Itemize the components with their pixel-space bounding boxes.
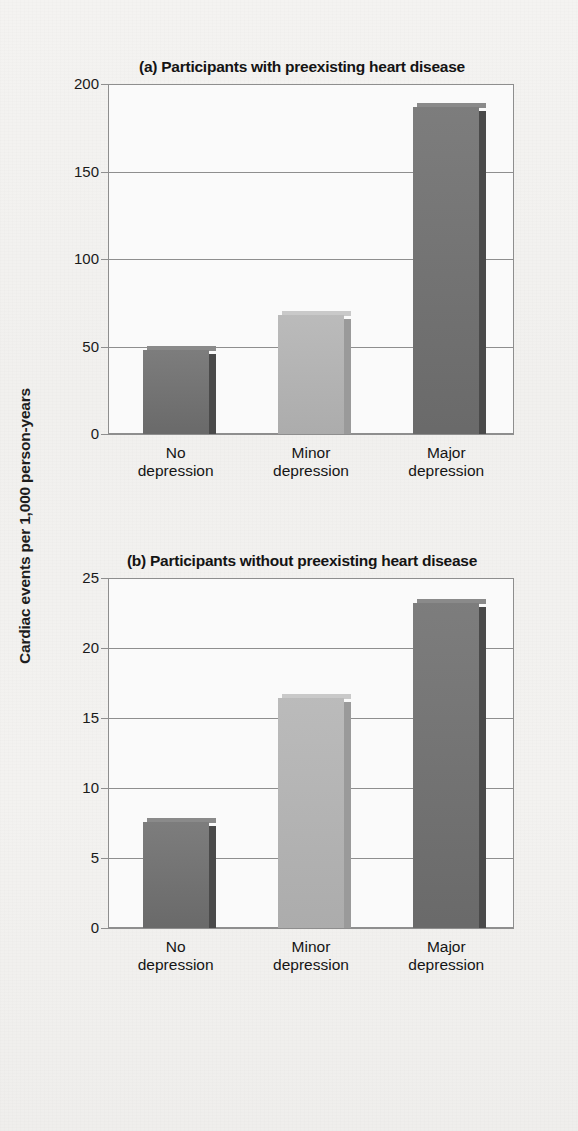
bar-no-depression — [143, 822, 209, 928]
y-tick-mark — [101, 928, 108, 929]
x-label-minor-depression: Minor depression — [243, 434, 378, 481]
bar-side — [344, 319, 351, 434]
y-tick-label: 0 — [91, 425, 99, 442]
x-label-no-depression: No depression — [108, 434, 243, 481]
chart-panel-b: (b) Participants without preexisting hea… — [0, 552, 578, 928]
bar-side — [479, 607, 486, 928]
panel-b-plot-area: 0510152025 No depression Minor depressio… — [108, 578, 514, 928]
y-tick-label: 5 — [91, 849, 99, 866]
x-label-line2: depression — [243, 462, 378, 480]
x-label-line1: No — [108, 938, 243, 956]
y-tick-mark — [101, 648, 108, 649]
panel-b-bars — [108, 578, 514, 928]
y-tick-label: 0 — [91, 919, 99, 936]
y-tick-label: 100 — [74, 250, 99, 267]
y-tick-label: 10 — [82, 779, 99, 796]
panel-a-bars — [108, 84, 514, 434]
x-label-line2: depression — [379, 956, 514, 974]
figure-page: Cardiac events per 1,000 person-years (a… — [0, 0, 578, 1131]
bar-face — [143, 822, 209, 928]
x-label-line1: No — [108, 444, 243, 462]
x-label-major-depression: Major depression — [379, 928, 514, 975]
bar-slot — [379, 578, 514, 928]
bar-major-depression — [413, 107, 479, 434]
x-label-line1: Minor — [243, 444, 378, 462]
bar-side — [479, 111, 486, 434]
panel-a-plot-area: 050100150200 No depression Minor depress… — [108, 84, 514, 434]
x-label-line1: Minor — [243, 938, 378, 956]
y-tick-label: 25 — [82, 569, 99, 586]
y-tick-label: 15 — [82, 709, 99, 726]
y-tick-label: 50 — [82, 338, 99, 355]
panel-a-x-labels: No depression Minor depression Major dep… — [108, 434, 514, 481]
bar-slot — [379, 84, 514, 434]
y-tick-mark — [101, 172, 108, 173]
y-tick-mark — [101, 858, 108, 859]
bar-slot — [243, 578, 378, 928]
y-tick-label: 20 — [82, 639, 99, 656]
y-tick-mark — [101, 718, 108, 719]
x-label-line2: depression — [108, 956, 243, 974]
x-label-line2: depression — [108, 462, 243, 480]
y-tick-mark — [101, 347, 108, 348]
y-tick-label: 200 — [74, 75, 99, 92]
y-tick-mark — [101, 578, 108, 579]
y-tick-mark — [101, 84, 108, 85]
panel-b-title: (b) Participants without preexisting hea… — [0, 552, 578, 570]
chart-panel-a: (a) Participants with preexisting heart … — [0, 58, 578, 434]
x-label-no-depression: No depression — [108, 928, 243, 975]
y-tick-label: 150 — [74, 163, 99, 180]
x-label-line1: Major — [379, 938, 514, 956]
x-label-major-depression: Major depression — [379, 434, 514, 481]
bar-side — [209, 354, 216, 434]
bar-face — [143, 350, 209, 434]
bar-minor-depression — [278, 315, 344, 434]
bar-no-depression — [143, 350, 209, 434]
bar-slot — [108, 578, 243, 928]
x-label-minor-depression: Minor depression — [243, 928, 378, 975]
bar-face — [413, 603, 479, 928]
bar-side — [209, 826, 216, 928]
y-tick-mark — [101, 259, 108, 260]
bar-face — [413, 107, 479, 434]
panel-b-x-labels: No depression Minor depression Major dep… — [108, 928, 514, 975]
x-label-line2: depression — [243, 956, 378, 974]
panel-a-title: (a) Participants with preexisting heart … — [0, 58, 578, 76]
y-tick-mark — [101, 434, 108, 435]
bar-slot — [108, 84, 243, 434]
bar-face — [278, 698, 344, 928]
x-label-line2: depression — [379, 462, 514, 480]
bar-major-depression — [413, 603, 479, 928]
x-label-line1: Major — [379, 444, 514, 462]
bar-minor-depression — [278, 698, 344, 928]
bar-face — [278, 315, 344, 434]
bar-slot — [243, 84, 378, 434]
bar-side — [344, 702, 351, 928]
y-tick-mark — [101, 788, 108, 789]
